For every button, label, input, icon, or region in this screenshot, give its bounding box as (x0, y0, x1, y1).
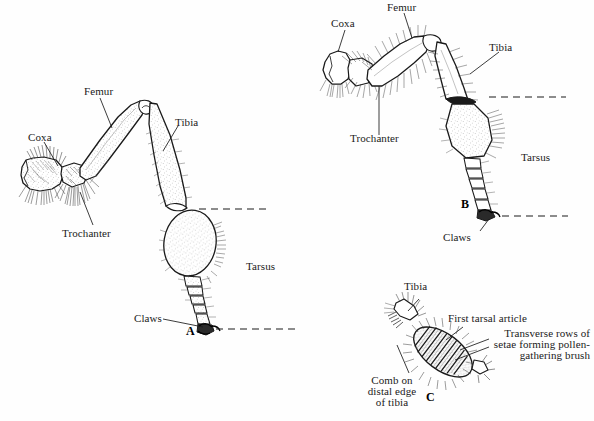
label-tibia-b: Tibia (489, 42, 512, 54)
figure-b-drawing (320, 13, 568, 231)
label-trochanter-a: Trochanter (62, 228, 111, 240)
tibia-b (428, 42, 478, 103)
tarsomeres-b (464, 158, 498, 210)
coxa-a (19, 145, 66, 205)
figure-marker-a: A (186, 324, 195, 339)
femur-a (80, 101, 146, 183)
label-trochanter-b: Trochanter (350, 133, 399, 145)
label-first-tarsal-article: First tarsal article (448, 313, 527, 325)
label-comb-line3: of tibia (350, 397, 434, 409)
label-femur-b: Femur (387, 2, 416, 14)
label-coxa-a: Coxa (28, 132, 52, 144)
label-transverse-line3: gathering brush (424, 350, 590, 362)
label-tibia-c: Tibia (404, 281, 427, 293)
figure-a-drawing (19, 98, 296, 335)
label-coxa-b: Coxa (331, 18, 355, 30)
tibia-c (384, 292, 426, 328)
coxa-b (320, 51, 351, 98)
label-claws-a: Claws (134, 313, 162, 325)
plate-caption (0, 411, 594, 421)
label-claws-b: Claws (443, 232, 471, 244)
label-tarsus-a: Tarsus (246, 261, 275, 273)
label-tibia-a: Tibia (175, 117, 198, 129)
tarsomeres-a (178, 276, 216, 324)
figure-marker-b: B (461, 197, 469, 212)
tarsus-b (439, 104, 505, 158)
label-tarsus-b: Tarsus (521, 152, 550, 164)
figure-marker-c: C (426, 390, 435, 405)
tarsus-a (159, 206, 226, 283)
label-femur-a: Femur (84, 86, 113, 98)
